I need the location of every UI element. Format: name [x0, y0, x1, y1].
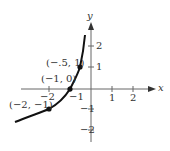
tick-label-x-m1: −1	[69, 92, 84, 102]
x-axis-label: x	[158, 83, 164, 93]
point-label-m1-0: (−1, 0)	[41, 74, 76, 84]
y-axis-label: y	[87, 11, 93, 21]
tick-label-y-m1: −1	[80, 104, 95, 114]
tick-label-x-2: 2	[130, 93, 136, 103]
x-axis-arrow-icon	[148, 86, 156, 92]
tick-label-y-2: 2	[96, 41, 102, 51]
point-label-m05-1: (−.5, 1)	[46, 58, 84, 68]
log-function-graph: y x −2 −1 1 2 2 1 −1 −2 (−.5, 1) (−1, 0)…	[0, 0, 170, 151]
tick-label-y-1: 1	[96, 62, 102, 72]
tick-label-y-m2: −2	[80, 125, 95, 135]
point-label-m2-m1: (−2, −1)	[9, 100, 53, 110]
tick-label-x-1: 1	[109, 93, 115, 103]
y-axis-arrow-icon	[88, 22, 94, 30]
